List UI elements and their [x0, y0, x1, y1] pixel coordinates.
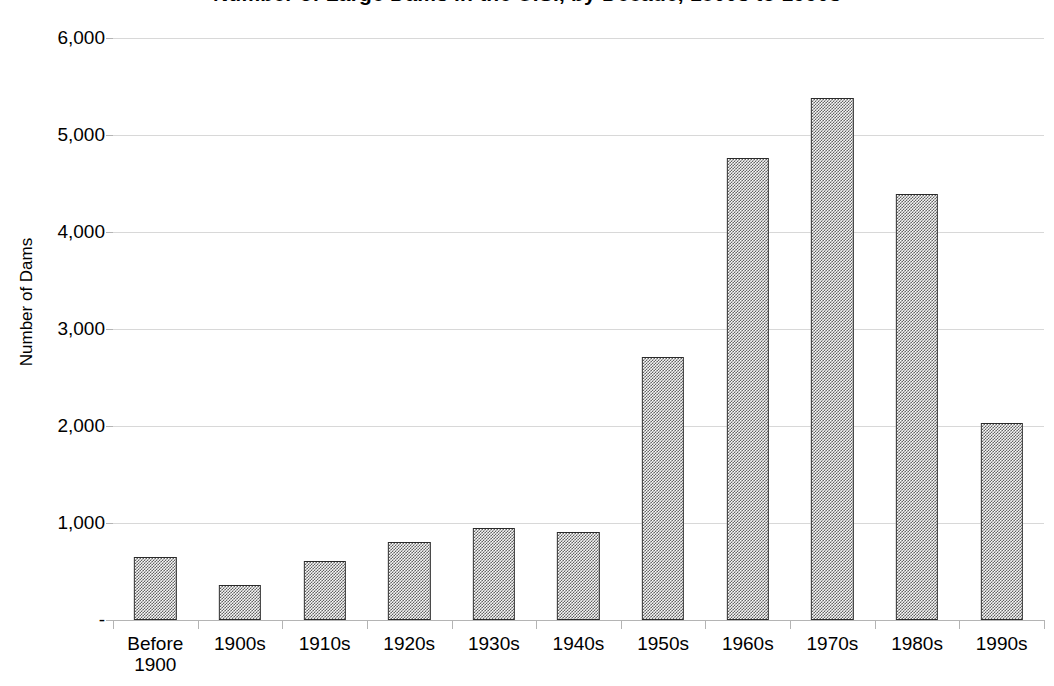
- y-axis-tick: [106, 523, 113, 524]
- y-axis-tick-label: 2,000: [10, 416, 105, 435]
- y-axis-tick: [106, 38, 113, 39]
- x-axis-tick-label: 1960s: [705, 633, 790, 654]
- bar-slot: [113, 38, 198, 620]
- bar[interactable]: [303, 561, 345, 620]
- bar-slot: [282, 38, 367, 620]
- bar-slot: [452, 38, 537, 620]
- chart-title: Number of Large Dams in the U.S., by Dec…: [0, 0, 1054, 6]
- bar-slot: [536, 38, 621, 620]
- x-axis-tick: [198, 620, 199, 629]
- bar[interactable]: [642, 357, 684, 620]
- x-axis-tick: [705, 620, 706, 629]
- bar[interactable]: [388, 542, 430, 620]
- bar-slot: [959, 38, 1044, 620]
- x-axis-tick: [367, 620, 368, 629]
- bar[interactable]: [134, 557, 176, 620]
- bar-slot: [705, 38, 790, 620]
- x-axis-tick-label: 1980s: [875, 633, 960, 654]
- bar[interactable]: [727, 158, 769, 620]
- y-axis-tick: [106, 329, 113, 330]
- bar-slot: [790, 38, 875, 620]
- bar[interactable]: [981, 423, 1023, 620]
- bar-chart: Number of Large Dams in the U.S., by Dec…: [0, 0, 1054, 686]
- x-axis-tick: [113, 620, 114, 629]
- x-axis-tick-label: 1950s: [621, 633, 706, 654]
- y-axis-tick-label: -: [10, 610, 105, 629]
- plot-area: [113, 38, 1044, 620]
- x-axis-tick: [875, 620, 876, 629]
- y-axis-tick: [106, 426, 113, 427]
- bar[interactable]: [811, 98, 853, 620]
- y-axis-tick: [106, 135, 113, 136]
- x-axis-tick-label: 1930s: [452, 633, 537, 654]
- bar-slot: [621, 38, 706, 620]
- y-axis-tick-labels: -1,0002,0003,0004,0005,0006,000: [10, 38, 105, 620]
- bar[interactable]: [896, 194, 938, 620]
- x-axis-tick-label: 1910s: [282, 633, 367, 654]
- bar[interactable]: [473, 528, 515, 620]
- bar[interactable]: [557, 532, 599, 620]
- x-axis-tick-label: 1970s: [790, 633, 875, 654]
- x-axis-tick-label: 1900s: [198, 633, 283, 654]
- x-axis-tick-label: 1990s: [959, 633, 1044, 654]
- y-axis-tick-label: 4,000: [10, 222, 105, 241]
- y-axis-tick: [106, 232, 113, 233]
- y-axis-tick-label: 5,000: [10, 125, 105, 144]
- x-axis-tick-label: 1920s: [367, 633, 452, 654]
- x-axis-tick: [790, 620, 791, 629]
- y-axis-tick-label: 3,000: [10, 319, 105, 338]
- bar[interactable]: [219, 585, 261, 620]
- y-axis-tick-label: 6,000: [10, 28, 105, 47]
- x-axis-tick: [1044, 620, 1045, 629]
- bar-slot: [367, 38, 452, 620]
- x-axis-tick: [621, 620, 622, 629]
- x-axis-tick-label: 1940s: [536, 633, 621, 654]
- x-axis-tick: [452, 620, 453, 629]
- bar-slot: [875, 38, 960, 620]
- y-axis-tick: [106, 620, 113, 621]
- x-axis-tick: [959, 620, 960, 629]
- bar-slot: [198, 38, 283, 620]
- x-axis-tick-label: Before 1900: [113, 633, 198, 675]
- x-axis-tick: [536, 620, 537, 629]
- x-axis: Before 19001900s1910s1920s1930s1940s1950…: [113, 620, 1044, 686]
- x-axis-tick: [282, 620, 283, 629]
- y-axis-tick-label: 1,000: [10, 513, 105, 532]
